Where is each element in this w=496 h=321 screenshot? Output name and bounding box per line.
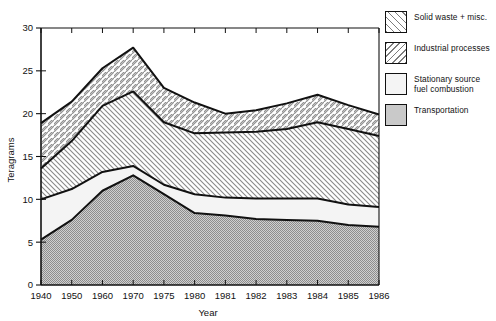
legend-swatch-solid-waste (385, 11, 407, 33)
chart-legend: Solid waste + misc. Industrial processes… (385, 11, 496, 135)
x-tick-label: 1975 (153, 290, 174, 301)
x-tick-label: 1970 (123, 290, 144, 301)
y-tick-label: 30 (22, 22, 33, 33)
y-axis-tick-labels: 051015202530 (22, 22, 33, 290)
legend-swatch-stationary-fuel (385, 73, 407, 95)
y-tick-label: 20 (22, 108, 33, 119)
legend-item-stationary-fuel: Stationary sourcefuel combustion (385, 73, 496, 95)
x-tick-label: 1984 (307, 290, 328, 301)
legend-label-transportation: Transportation (414, 104, 469, 115)
x-tick-label: 1940 (30, 290, 51, 301)
x-tick-label: 1981 (215, 290, 236, 301)
x-axis-tick-labels: 1940195019601970197519801981198219831984… (30, 290, 389, 301)
legend-swatch-transportation (385, 104, 407, 126)
x-tick-label: 1960 (92, 290, 113, 301)
legend-label-solid-waste: Solid waste + misc. (414, 11, 487, 22)
x-tick-label: 1983 (276, 290, 297, 301)
legend-item-solid-waste: Solid waste + misc. (385, 11, 496, 33)
y-tick-label: 15 (22, 151, 33, 162)
area-layers (41, 48, 379, 285)
legend-item-industrial-processes: Industrial processes (385, 42, 496, 64)
legend-label-stationary-fuel: Stationary sourcefuel combustion (414, 73, 480, 94)
x-tick-label: 1950 (61, 290, 82, 301)
y-tick-label: 5 (28, 237, 33, 248)
y-axis-title: Teragrams (5, 137, 16, 182)
x-tick-label: 1985 (338, 290, 359, 301)
x-axis-title: Year (198, 307, 217, 318)
y-tick-label: 25 (22, 65, 33, 76)
x-tick-label: 1986 (368, 290, 389, 301)
y-tick-label: 10 (22, 194, 33, 205)
legend-swatch-industrial-processes (385, 42, 407, 64)
legend-label-industrial-processes: Industrial processes (414, 42, 490, 53)
legend-item-transportation: Transportation (385, 104, 496, 126)
chart-figure: 051015202530 194019501960197019751980198… (0, 0, 496, 321)
x-tick-label: 1980 (184, 290, 205, 301)
x-tick-label: 1982 (246, 290, 267, 301)
y-tick-label: 0 (28, 279, 33, 290)
